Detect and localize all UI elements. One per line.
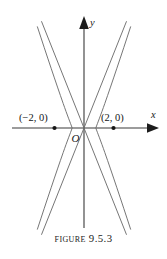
figure-caption-number: 9.5.3 [89,232,113,244]
y-axis-label: y [89,17,95,28]
origin-label: O [72,132,80,144]
hyperbola-plot: (−2, 0) (2, 0) O x y [0,0,167,259]
figure-container: (−2, 0) (2, 0) O x y Figure 9.5.3 [0,0,167,259]
figure-caption: Figure 9.5.3 [0,232,167,244]
x-axis-arrowhead [147,123,159,133]
point-label-plus-two: (2, 0) [101,112,124,124]
figure-caption-word: Figure [55,232,86,244]
point-dot-minus-two [52,126,56,130]
y-axis [79,16,89,228]
point-label-minus-two: (−2, 0) [19,112,48,124]
point-dot-plus-two [111,126,115,130]
y-axis-arrowhead [79,16,89,29]
x-axis-label: x [150,109,156,120]
